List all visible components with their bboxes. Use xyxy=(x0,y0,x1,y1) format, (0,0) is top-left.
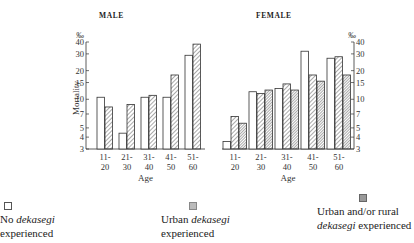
y-tick-label: 20 xyxy=(76,66,85,76)
x-tick-label: 41- xyxy=(307,152,319,162)
x-tick-label: 40 xyxy=(145,162,154,172)
bar-open xyxy=(301,51,308,149)
y-unit-label: ‰ xyxy=(348,31,356,40)
bar-open xyxy=(163,97,170,149)
x-tick-label: 31- xyxy=(281,152,293,162)
x-tick-label: 11- xyxy=(99,152,110,162)
x-tick-label: 21- xyxy=(121,152,133,162)
y-tick-label: 5 xyxy=(356,123,360,133)
y-tick-label: 30 xyxy=(76,49,85,59)
y-tick-label: 30 xyxy=(356,49,365,59)
bar-dense-hatched xyxy=(343,75,350,149)
x-axis-label: Age xyxy=(281,173,296,183)
bar-dense-hatched xyxy=(317,81,324,149)
bar-hatched xyxy=(231,116,238,149)
bar-dense-hatched xyxy=(291,90,298,149)
x-tick-label: 60 xyxy=(189,162,198,172)
x-tick-label: 21- xyxy=(255,152,267,162)
legend-swatch-urban xyxy=(189,202,197,210)
bar-open xyxy=(223,141,230,149)
legend-no-dekasegi: No dekasegi experienced xyxy=(0,202,55,240)
y-tick-label: 20 xyxy=(356,66,365,76)
bar-hatched xyxy=(171,75,178,149)
x-tick-label: 30 xyxy=(123,162,132,172)
x-tick-label: 20 xyxy=(231,162,240,172)
bar-hatched xyxy=(257,93,264,149)
y-tick-label: 3 xyxy=(356,144,360,154)
x-tick-label: 30 xyxy=(257,162,266,172)
x-tick-label: 50 xyxy=(167,162,176,172)
bar-open xyxy=(249,92,256,149)
bar-open xyxy=(119,133,126,149)
bar-hatched xyxy=(283,84,290,149)
legend-swatch-open xyxy=(4,202,12,210)
x-tick-label: 20 xyxy=(101,162,110,172)
bar-open xyxy=(327,58,334,149)
x-tick-label: 40 xyxy=(283,162,292,172)
bar-hatched xyxy=(127,105,134,149)
y-tick-label: 5 xyxy=(80,123,84,133)
y-axis-label: Mortality xyxy=(71,81,81,115)
y-tick-label: 40 xyxy=(356,37,365,47)
legend-urban-dekasegi: Urban dekasegi experienced xyxy=(161,202,230,240)
bar-dense-hatched xyxy=(239,123,246,149)
bar-hatched xyxy=(105,107,112,149)
y-tick-label: 15 xyxy=(356,78,365,88)
y-tick-label: 7 xyxy=(356,109,360,119)
bar-open xyxy=(97,97,104,149)
y-tick-label: 4 xyxy=(356,132,361,142)
bar-open xyxy=(185,55,192,149)
x-axis-label: Age xyxy=(138,173,153,183)
x-tick-label: 50 xyxy=(309,162,318,172)
x-tick-label: 51- xyxy=(187,152,199,162)
x-tick-label: 31- xyxy=(143,152,155,162)
x-tick-label: 60 xyxy=(335,162,344,172)
y-tick-label: 10 xyxy=(356,94,365,104)
bar-hatched xyxy=(149,95,156,149)
bar-hatched xyxy=(193,44,200,149)
y-unit-label: ‰ xyxy=(76,31,84,40)
y-tick-label: 4 xyxy=(80,132,85,142)
x-tick-label: 41- xyxy=(165,152,177,162)
male-chart: 34571015203040‰11-2021-3031-4041-5051-60… xyxy=(71,31,205,183)
bar-hatched xyxy=(335,57,342,149)
bar-open xyxy=(275,88,282,149)
y-tick-label: 3 xyxy=(80,144,84,154)
legend-urban-rural-dekasegi: Urban and/or rural dekasegi experienced xyxy=(317,194,411,232)
bar-hatched xyxy=(309,75,316,149)
x-tick-label: 51- xyxy=(333,152,345,162)
bar-open xyxy=(141,97,148,149)
bar-dense-hatched xyxy=(265,90,272,149)
legend-swatch-rural xyxy=(359,194,367,202)
female-chart: 34571015203040‰11-2021-3031-4041-5051-60… xyxy=(222,31,365,183)
x-tick-label: 11- xyxy=(229,152,240,162)
